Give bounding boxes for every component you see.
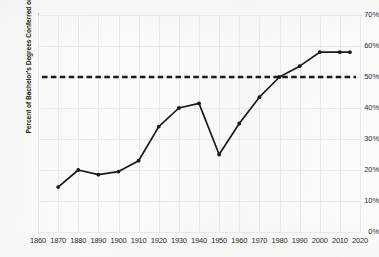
data-point-marker — [197, 101, 201, 105]
y-axis-title: Percent of Bachelor's Degrees Conferred … — [25, 0, 32, 134]
data-point-marker — [318, 50, 322, 54]
data-point-marker — [137, 159, 141, 163]
data-point-marker — [56, 185, 60, 189]
data-point-marker — [177, 106, 181, 110]
series-svg — [38, 15, 360, 232]
data-point-marker — [237, 122, 241, 126]
data-point-marker — [117, 170, 121, 174]
gridline-horizontal — [38, 232, 360, 233]
data-point-marker — [338, 50, 342, 54]
data-point-marker — [278, 75, 282, 79]
data-point-marker — [348, 50, 352, 54]
data-point-marker — [76, 168, 80, 172]
x-axis-tick-label: 2020 — [345, 236, 375, 245]
data-point-markers — [56, 50, 352, 189]
data-point-marker — [157, 125, 161, 129]
data-line-women-degrees — [58, 52, 350, 187]
chart-container: Percent of Bachelor's Degrees Conferred … — [0, 0, 379, 257]
data-point-marker — [217, 153, 221, 157]
data-point-marker — [257, 95, 261, 99]
gridline-vertical — [360, 15, 361, 232]
data-point-marker — [298, 64, 302, 68]
data-point-marker — [96, 173, 100, 177]
plot-area — [38, 15, 360, 232]
